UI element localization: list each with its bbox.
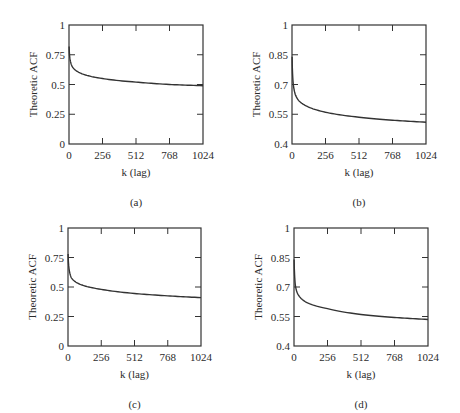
x-tick-label: 1024 (415, 149, 438, 161)
x-tick-label: 512 (353, 351, 370, 363)
chart-panel-d: 025651276810240.40.550.70.851k (lag)Theo… (252, 222, 440, 411)
y-tick-label: 0.25 (46, 108, 66, 120)
x-axis-label: k (lag) (344, 166, 373, 179)
x-tick-label: 768 (160, 351, 177, 363)
y-tick-label: 0.55 (269, 108, 289, 120)
y-tick-label: 0 (60, 138, 66, 150)
x-tick-label: 256 (317, 149, 334, 161)
x-axis-label: k (lag) (120, 368, 149, 381)
y-tick-label: 0.55 (271, 311, 291, 323)
x-tick-label: 1024 (417, 351, 440, 363)
figure-canvas: 0256512768102400.250.50.751k (lag)Theore… (0, 0, 460, 413)
x-tick-label: 768 (386, 351, 403, 363)
acf-curve (294, 259, 428, 319)
x-tick-label: 256 (319, 351, 336, 363)
plot-frame (294, 228, 428, 346)
y-tick-label: 0.5 (51, 79, 65, 91)
y-tick-label: 0.5 (50, 281, 64, 293)
panel-caption: (d) (355, 398, 368, 411)
y-tick-label: 1 (285, 222, 291, 234)
plot-frame (292, 25, 426, 144)
y-axis-label: Theoretic ACF (252, 254, 264, 320)
x-tick-label: 768 (384, 149, 401, 161)
y-axis-label: Theoretic ACF (26, 254, 38, 320)
y-tick-label: 1 (283, 19, 289, 31)
x-tick-label: 512 (351, 149, 368, 161)
acf-curve (69, 46, 203, 85)
x-tick-label: 0 (291, 351, 297, 363)
y-tick-label: 0.7 (274, 79, 288, 91)
y-tick-label: 0 (59, 340, 65, 352)
x-axis-label: k (lag) (346, 368, 375, 381)
x-tick-label: 0 (65, 351, 71, 363)
y-tick-label: 0.75 (46, 49, 66, 61)
chart-panel-b: 025651276810240.40.550.70.851k (lag)Theo… (250, 19, 438, 209)
y-tick-label: 0.25 (45, 311, 65, 323)
y-tick-label: 0.75 (45, 252, 65, 264)
y-tick-label: 0.7 (276, 281, 290, 293)
y-tick-label: 0.4 (276, 340, 290, 352)
x-tick-label: 512 (126, 351, 143, 363)
x-tick-label: 512 (128, 149, 145, 161)
chart-panel-c: 0256512768102400.250.50.751k (lag)Theore… (26, 222, 213, 411)
x-tick-label: 0 (289, 149, 295, 161)
x-tick-label: 768 (161, 149, 178, 161)
panel-caption: (a) (130, 196, 143, 209)
x-tick-label: 1024 (190, 351, 213, 363)
x-tick-label: 256 (93, 351, 110, 363)
y-axis-label: Theoretic ACF (27, 52, 39, 118)
y-tick-label: 1 (60, 19, 66, 31)
x-axis-label: k (lag) (121, 166, 150, 179)
panel-caption: (c) (128, 398, 141, 411)
chart-panel-a: 0256512768102400.250.50.751k (lag)Theore… (27, 19, 215, 209)
y-tick-label: 1 (59, 222, 65, 234)
x-tick-label: 1024 (192, 149, 215, 161)
x-tick-label: 256 (94, 149, 111, 161)
y-axis-label: Theoretic ACF (250, 52, 262, 118)
acf-curve (68, 254, 201, 298)
y-tick-label: 0.85 (271, 252, 291, 264)
acf-curve (292, 57, 426, 122)
x-tick-label: 0 (66, 149, 72, 161)
y-tick-label: 0.85 (269, 49, 289, 61)
panel-caption: (b) (353, 196, 366, 209)
y-tick-label: 0.4 (274, 138, 288, 150)
